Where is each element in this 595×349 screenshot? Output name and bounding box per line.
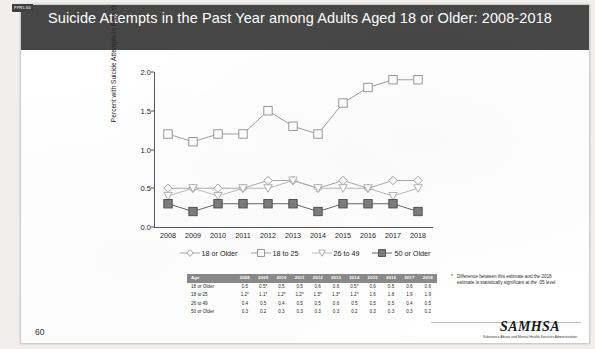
x-tick-label: 2016 [360,231,376,240]
logo-subtitle: Substance Abuse and Mental Health Servic… [483,335,577,339]
table-cell: 0.6 [309,283,327,292]
table-head: Age 200820092010201120122013201420152016… [187,274,437,283]
square-icon [251,248,271,258]
table-cell: 0.3 [327,308,345,317]
table-cell: 0.5 [345,300,363,309]
table-cell: 1.3* [327,291,345,300]
table-cell: 0.6 [327,300,345,309]
data-point-marker [389,76,397,84]
table-cell: 1.2* [236,291,254,300]
table-cell: 0.6 [400,283,418,292]
table-cell: 1.5* [309,291,327,300]
table-header-year: 2016 [382,274,400,283]
table-row: 18 to 251.2*1.1*1.2*1.2*1.5*1.3*1.2*1.61… [187,291,437,300]
data-point-marker [239,130,247,138]
table-cell: 0.3 [236,308,254,317]
x-tick-label: 2009 [185,231,201,240]
data-point-marker [264,176,272,184]
data-point-marker [289,200,297,208]
table-cell: 0.5 [254,300,272,309]
legend-label: 18 or Older [202,249,238,258]
y-tick-label: 0.0 [140,223,151,232]
table-header-year: 2014 [345,274,363,283]
data-point-marker [389,200,397,208]
data-point-marker [164,200,172,208]
table-cell: 0.2 [254,308,272,317]
data-point-marker [389,192,397,200]
data-point-marker [186,250,193,257]
logo-wordmark: SAMHSA [483,320,577,334]
x-tick-label: 2010 [210,231,226,240]
data-point-marker [414,76,422,84]
footnote-marker: * [451,274,453,280]
data-point-marker [414,185,422,193]
x-tick-label: 2008 [160,231,176,240]
data-point-marker [339,200,347,208]
table-cell: 0.3 [272,308,290,317]
page-title: Suicide Attempts in the Past Year among … [48,10,581,28]
table-row-label: 26 to 49 [187,300,236,309]
table-cell: 0.2 [345,308,363,317]
x-tick-label: 2014 [310,231,326,240]
table-header-age: Age [187,274,236,283]
table-cell: 1.2* [291,291,309,300]
data-point-marker [364,200,372,208]
table-cell: 1.6 [364,291,382,300]
data-point-marker [314,130,322,138]
legend-item-18-or-older[interactable]: 18 or Older [180,248,238,258]
legend-item-26-to-49[interactable]: 26 to 49 [312,248,360,258]
table-cell: 1.9 [400,291,418,300]
data-point-marker [389,176,397,184]
page-number: 60 [35,327,44,337]
data-point-marker [414,207,422,215]
x-axis-line [154,227,433,228]
table-cell: 0.5 [382,283,400,292]
table-header-year: 2008 [236,274,254,283]
table-cell: 0.6 [419,283,437,292]
table-cell: 0.5 [291,283,309,292]
table-header-year: 2010 [272,274,290,283]
data-table: Age 200820092010201120122013201420152016… [187,274,437,317]
data-point-marker [289,122,297,130]
x-tick-label: 2013 [285,231,301,240]
chart-container: Percent with Suicide Attempts in Past Ye… [21,50,589,343]
samhsa-logo: SAMHSA Substance Abuse and Mental Health… [483,320,577,339]
data-point-marker [214,130,222,138]
data-point-marker [314,207,322,215]
table-header-year: 2015 [364,274,382,283]
table-cell: 0.5* [345,283,363,292]
legend-item-50-or-older[interactable]: 50 or Older [372,248,430,258]
table-row: 50 or Older0.30.20.30.30.30.30.20.30.30.… [187,308,437,317]
table-cell: 0.4 [272,300,290,309]
square-filled-icon [372,248,392,258]
series-lines [154,72,432,227]
footnote: * Difference between this estimate and t… [451,274,563,287]
x-tick-label: 2017 [385,231,401,240]
slide-canvas: Suicide Attempts in the Past Year among … [20,4,590,344]
data-point-marker [214,200,222,208]
table-cell: 1.2* [272,291,290,300]
table-cell: 1.2* [345,291,363,300]
footnote-text: Difference between this estimate and the… [451,274,563,287]
table-cell: 0.5* [254,283,272,292]
y-tick-label: 1.0 [140,145,151,154]
data-point-marker [214,192,222,200]
table-row: 18 or Older0.50.5*0.50.50.60.60.5*0.60.5… [187,283,437,292]
chart-legend: 18 or Older18 to 2526 to 4950 or Older [21,248,589,258]
table-cell: 0.3 [309,308,327,317]
table-cell: 0.4 [400,300,418,309]
table-cell: 0.5 [291,300,309,309]
table-cell: 0.3 [400,308,418,317]
data-point-marker [264,107,272,115]
plot-area: 0.00.51.01.52.0 [154,72,432,227]
legend-item-18-to-25[interactable]: 18 to 25 [251,248,299,258]
table-row-label: 50 or Older [187,308,236,317]
table-header-row: Age 200820092010201120122013201420152016… [187,274,437,283]
y-tick-label: 2.0 [140,68,151,77]
series-50-or-older [164,200,422,216]
y-tick-label: 0.5 [140,184,151,193]
data-point-marker [189,138,197,146]
table-cell: 0.6 [327,283,345,292]
x-tick-label: 2011 [235,231,250,240]
data-point-marker [164,130,172,138]
